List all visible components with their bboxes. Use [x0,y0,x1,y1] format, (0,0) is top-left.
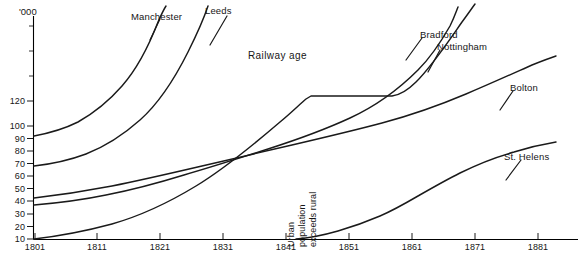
y-tick-label-20: 20 [0,222,25,232]
x-tick-label-1801: 1801 [14,242,56,252]
population-growth-chart: '000 10 20 30 40 50 60 70 80 90 100 120 … [0,0,583,259]
y-tick-label-120: 120 [0,96,25,106]
series-label-bolton: Bolton [510,82,538,93]
x-tick-label-1871: 1871 [454,242,496,252]
y-tick-label-100: 100 [0,121,25,131]
x-tick-label-1851: 1851 [328,242,370,252]
x-tick-label-1861: 1861 [391,242,433,252]
y-tick-label-60: 60 [0,171,25,181]
annotation-urban-line-3: exceeds rural [308,192,318,247]
x-tick-label-1811: 1811 [76,242,118,252]
y-tick-label-40: 40 [0,196,25,206]
x-tick-label-1821: 1821 [139,242,181,252]
x-tick-label-1881: 1881 [517,242,559,252]
annotation-urban-line-2: population [297,204,307,247]
series-curve-leeds [34,6,208,166]
y-tick-label-50: 50 [0,184,25,194]
series-curve-nottingham [34,7,458,205]
chart-canvas [0,0,583,259]
series-label-st-helens: St. Helens [504,151,549,162]
series-curve-bolton [34,56,556,198]
series-label-leeds: Leeds [205,5,232,16]
series-curve-bradford [34,4,475,239]
annotation-urban-line-1: Urban [286,222,296,247]
series-label-nottingham: Nottingham [437,41,487,52]
y-tick-label-30: 30 [0,209,25,219]
y-tick-label-80: 80 [0,146,25,156]
series-curve-manchester [34,6,166,136]
y-axis-unit-label: '000 [19,6,37,17]
y-tick-label-70: 70 [0,159,25,169]
y-tick-label-90: 90 [0,134,25,144]
series-label-manchester: Manchester [131,11,182,22]
annotation-railway-age: Railway age [248,50,307,61]
series-label-bradford: Bradford [420,29,458,40]
y-axis-ticks [27,26,34,239]
x-tick-label-1831: 1831 [202,242,244,252]
